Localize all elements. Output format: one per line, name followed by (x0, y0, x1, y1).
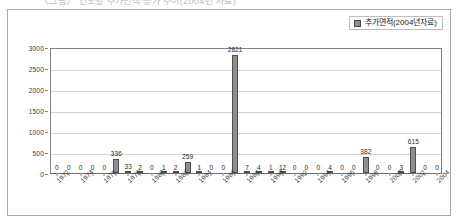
bar-slot: 336 (110, 49, 122, 173)
bar-value-label: 0 (388, 164, 392, 171)
legend-label: 추가면적(2004년자료) (365, 19, 437, 27)
y-axis-tick-mark (45, 69, 48, 70)
bar-slot: 259 (182, 49, 194, 173)
bar-value-label: 1 (198, 164, 202, 171)
bar-value-label: 0 (293, 164, 297, 171)
y-axis-tick-label: 2500 (29, 66, 44, 73)
bar-slot: 0 (75, 49, 87, 173)
bar-value-label: 0 (316, 164, 320, 171)
bar-slot: 33 (122, 49, 134, 173)
bar-value-label: 2 (174, 164, 178, 171)
bar-slot: 2821 (229, 49, 241, 173)
bar-slot: 0 (99, 49, 111, 173)
bar-slot: 2 (170, 49, 182, 173)
bar-value-label: 0 (55, 164, 59, 171)
y-axis-tick-mark (45, 111, 48, 112)
bar-value-label: 259 (182, 153, 193, 160)
legend-swatch-icon (354, 20, 361, 27)
bar-slot: 12 (277, 49, 289, 173)
y-axis-tick-mark (45, 90, 48, 91)
y-axis-ticks: 050010001500200025003000 (8, 48, 48, 174)
bar-value-label: 7 (245, 164, 249, 171)
bar-slot: 4 (324, 49, 336, 173)
bar-value-label: 0 (340, 164, 344, 171)
bar-value-label: 336 (111, 150, 122, 157)
bar-slot: 0 (87, 49, 99, 173)
y-axis-tick-mark (45, 48, 48, 49)
bar-slot: 4 (253, 49, 265, 173)
bar-slot: 615 (407, 49, 419, 173)
bar-slot: 0 (289, 49, 301, 173)
y-axis-tick-label: 0 (40, 171, 44, 178)
bar-slot: 0 (205, 49, 217, 173)
bar-slot: 1 (194, 49, 206, 173)
bar-value-label: 0 (79, 164, 83, 171)
bar-slot: 0 (384, 49, 396, 173)
bar-slot: 0 (312, 49, 324, 173)
y-axis-tick-label: 500 (33, 150, 44, 157)
bar-slot: 0 (419, 49, 431, 173)
bar-slot: 3 (395, 49, 407, 173)
plot-area: 0000033633201225910028217411200040038200… (50, 48, 442, 174)
bar-series: 0000033633201225910028217411200040038200… (51, 49, 441, 173)
x-axis-ticks: 1972197419761978198019821984198619881990… (50, 175, 442, 215)
bar (410, 147, 416, 173)
bar (363, 157, 369, 173)
y-axis-tick-label: 1500 (29, 108, 44, 115)
bar-slot: 2 (134, 49, 146, 173)
y-axis-tick-label: 2000 (29, 87, 44, 94)
bar-slot: 1 (265, 49, 277, 173)
chart-legend: 추가면적(2004년자료) (349, 16, 443, 30)
cropped-caption-text: 〈그림〉 연도별 추가면적 증가 추이(2004년 자료) (40, 0, 236, 7)
bar-slot: 1 (158, 49, 170, 173)
cropped-caption-sliver: 〈그림〉 연도별 추가면적 증가 추이(2004년 자료) (0, 0, 458, 7)
y-axis-tick-mark (45, 132, 48, 133)
bar-value-label: 0 (150, 164, 154, 171)
bar-slot: 0 (146, 49, 158, 173)
bar-slot: 382 (360, 49, 372, 173)
bar-value-label: 0 (435, 164, 439, 171)
bar-value-label: 0 (103, 164, 107, 171)
bar-slot: 0 (372, 49, 384, 173)
bar-slot: 7 (241, 49, 253, 173)
bar-value-label: 615 (408, 138, 419, 145)
y-axis-tick-mark (45, 153, 48, 154)
bar-slot: 0 (51, 49, 63, 173)
bar-slot: 0 (217, 49, 229, 173)
y-axis-tick-label: 3000 (29, 45, 44, 52)
bar-slot: 0 (300, 49, 312, 173)
bar-slot: 0 (431, 49, 443, 173)
chart-frame: 추가면적(2004년자료) 050010001500200025003000 0… (7, 9, 451, 216)
bar-slot: 0 (336, 49, 348, 173)
bar-value-label: 382 (360, 148, 371, 155)
bar (232, 55, 238, 173)
bar-slot: 0 (348, 49, 360, 173)
y-axis-tick-label: 1000 (29, 129, 44, 136)
y-axis-tick-mark (45, 174, 48, 175)
bar-value-label: 0 (221, 164, 225, 171)
bar-slot: 0 (63, 49, 75, 173)
bar-value-label: 33 (124, 163, 131, 170)
bar-value-label: 1 (269, 164, 273, 171)
